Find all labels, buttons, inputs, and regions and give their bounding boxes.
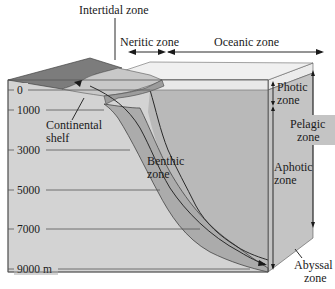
- label-oceanic-zone: Oceanic zone: [214, 35, 279, 49]
- label-abyssal-2: zone: [304, 271, 327, 285]
- label-intertidal-zone: Intertidal zone: [79, 3, 149, 17]
- ocean-zones-diagram: 0 1000 3000 5000 7000 9000 m Intertidal …: [0, 0, 335, 289]
- depth-label-5000: 5000: [17, 184, 40, 196]
- depth-label-9000: 9000 m: [17, 263, 52, 275]
- label-benthic-1: Benthic: [147, 154, 184, 168]
- label-pelagic-2: zone: [297, 130, 320, 144]
- label-photic-1: Photic: [277, 80, 308, 94]
- label-continental-1: Continental: [46, 118, 103, 132]
- photic-band: [150, 80, 268, 90]
- label-continental-2: shelf: [46, 131, 69, 145]
- label-benthic-2: zone: [147, 167, 170, 181]
- depth-label-7000: 7000: [17, 223, 40, 235]
- depth-label-1000: 1000: [17, 104, 40, 116]
- label-aphotic-1: Aphotic: [274, 160, 313, 174]
- depth-label-0: 0: [17, 84, 23, 96]
- abyssal-pointer: [295, 249, 302, 258]
- label-abyssal-1: Abyssal: [294, 258, 333, 272]
- label-neritic-zone: Neritic zone: [120, 35, 179, 49]
- label-aphotic-2: zone: [274, 173, 297, 187]
- depth-label-3000: 3000: [17, 144, 40, 156]
- label-pelagic-1: Pelagic: [290, 117, 325, 131]
- neritic-arrow: [128, 49, 166, 55]
- label-photic-2: zone: [277, 93, 300, 107]
- oceanic-arrow: [167, 49, 324, 55]
